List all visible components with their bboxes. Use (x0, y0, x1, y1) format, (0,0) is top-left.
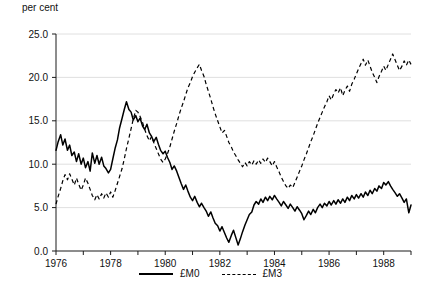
line-chart-plot: 0.05.010.015.020.025.0 19761978198019821… (0, 0, 421, 291)
y-tick-label: 25.0 (29, 29, 49, 40)
legend-label-m3: £M3 (263, 268, 282, 280)
series-line-m3 (56, 54, 411, 204)
legend-item-m0: £M0 (139, 268, 199, 280)
y-tick-label: 15.0 (29, 115, 49, 126)
y-tick-label: 5.0 (34, 202, 48, 213)
legend-swatch-dashed-icon (222, 274, 256, 275)
y-tick-label: 0.0 (34, 246, 48, 257)
x-axis-ticks: 1976197819801982198419861988 (45, 251, 411, 269)
y-tick-label: 10.0 (29, 159, 49, 170)
chart-legend: £M0 £M3 (0, 268, 421, 280)
legend-swatch-solid-icon (139, 273, 173, 275)
y-axis-ticks: 0.05.010.015.020.025.0 (29, 29, 56, 257)
series-line-m0 (56, 102, 411, 245)
legend-label-m0: £M0 (180, 268, 199, 280)
gridlines (56, 34, 411, 208)
y-tick-label: 20.0 (29, 72, 49, 83)
chart-container: per cent 0.05.010.015.020.025.0 19761978… (0, 0, 421, 291)
legend-item-m3: £M3 (222, 268, 282, 280)
